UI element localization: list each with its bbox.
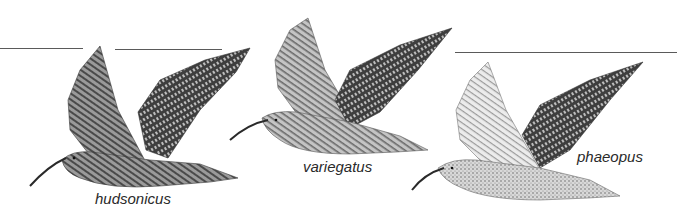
divider-line-right [455,52,677,53]
illustration-canvas [0,0,677,215]
bird-hudsonicus [30,46,250,187]
label-phaeopus: phaeopus [577,148,643,165]
bird-variegatus [230,18,452,154]
label-variegatus: variegatus [303,158,372,175]
divider-line-left-2 [115,49,222,50]
label-hudsonicus: hudsonicus [95,190,171,207]
divider-line-left-1 [0,48,83,49]
bird-phaeopus [412,62,643,200]
